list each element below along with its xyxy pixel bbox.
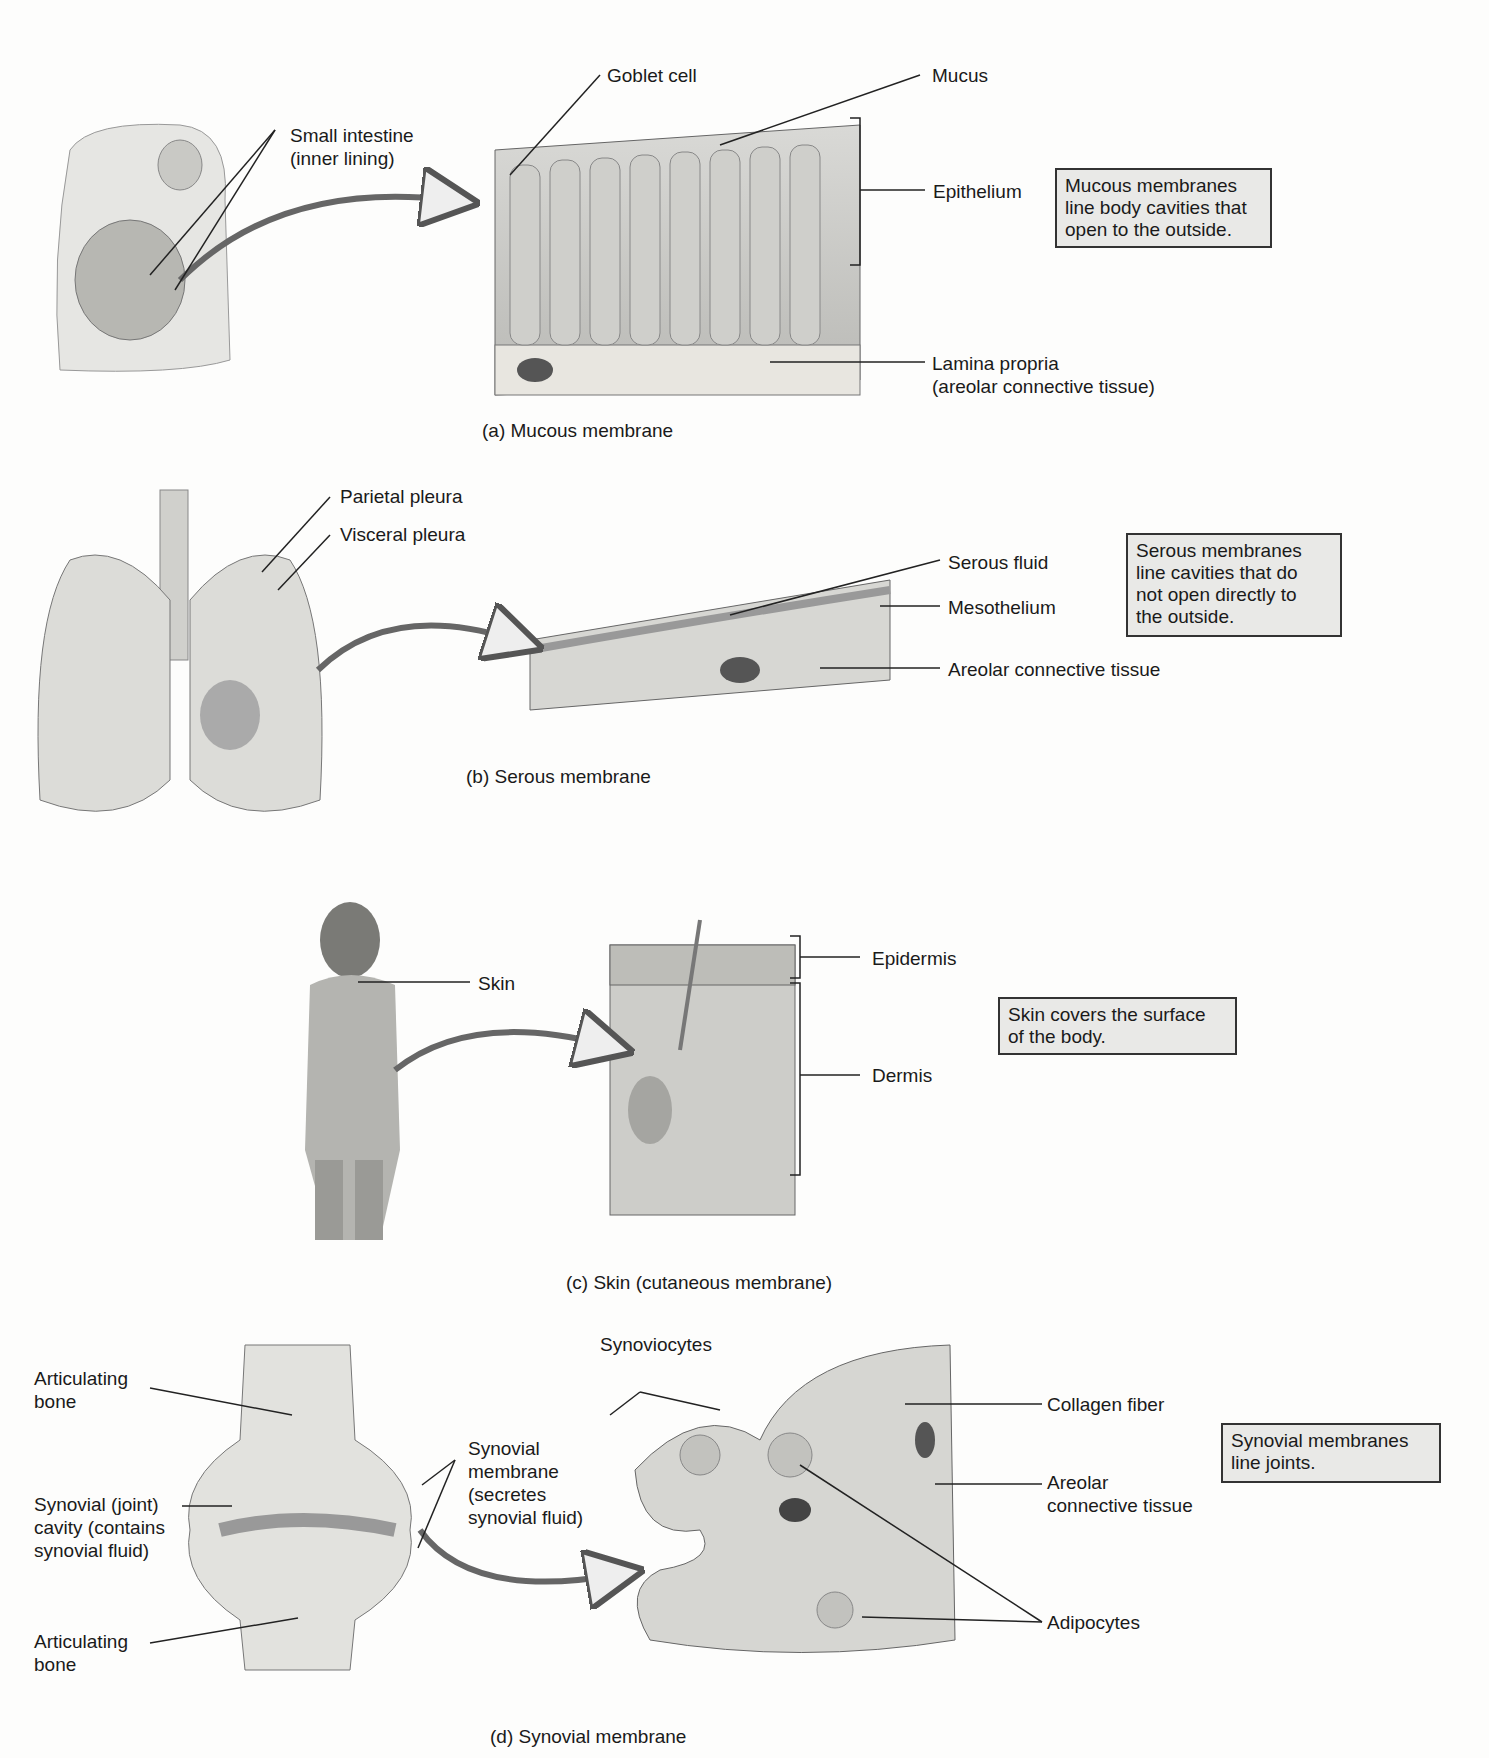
arrow-b bbox=[318, 625, 515, 670]
abdomen-illustration bbox=[57, 124, 230, 371]
synovial-tissue-illustration bbox=[635, 1345, 955, 1653]
illustration-layer bbox=[0, 0, 1489, 1758]
label-articulating-bone-top: Articulating bone bbox=[34, 1367, 128, 1413]
serous-membrane-illustration bbox=[530, 580, 890, 710]
human-figure-illustration bbox=[305, 902, 400, 1240]
label-dermis: Dermis bbox=[872, 1064, 932, 1087]
caption-d: (d) Synovial membrane bbox=[490, 1726, 686, 1748]
label-synovial-membrane: Synovial membrane (secretes synovial flu… bbox=[468, 1437, 583, 1529]
label-epithelium: Epithelium bbox=[933, 180, 1022, 203]
label-small-intestine: Small intestine (inner lining) bbox=[290, 124, 414, 170]
label-skin: Skin bbox=[478, 972, 515, 995]
lungs-illustration bbox=[38, 490, 322, 811]
note-skin: Skin covers the surface of the body. bbox=[998, 997, 1237, 1055]
label-visceral-pleura: Visceral pleura bbox=[340, 523, 465, 546]
label-adipocytes: Adipocytes bbox=[1047, 1611, 1140, 1634]
arrow-d bbox=[420, 1530, 615, 1582]
joint-illustration bbox=[189, 1345, 412, 1670]
label-goblet-cell: Goblet cell bbox=[607, 64, 697, 87]
label-mucus: Mucus bbox=[932, 64, 988, 87]
label-mesothelium: Mesothelium bbox=[948, 596, 1056, 619]
caption-c: (c) Skin (cutaneous membrane) bbox=[566, 1272, 832, 1294]
caption-a: (a) Mucous membrane bbox=[482, 420, 673, 442]
label-parietal-pleura: Parietal pleura bbox=[340, 485, 463, 508]
mucous-membrane-illustration bbox=[495, 125, 860, 395]
label-areolar-d: Areolar connective tissue bbox=[1047, 1471, 1193, 1517]
note-serous: Serous membranes line cavities that do n… bbox=[1126, 533, 1342, 637]
label-synoviocytes: Synoviocytes bbox=[600, 1333, 712, 1356]
caption-b: (b) Serous membrane bbox=[466, 766, 651, 788]
label-synovial-cavity: Synovial (joint) cavity (contains synovi… bbox=[34, 1493, 165, 1562]
label-areolar-b: Areolar connective tissue bbox=[948, 658, 1160, 681]
note-synovial: Synovial membranes line joints. bbox=[1221, 1423, 1441, 1483]
note-mucous: Mucous membranes line body cavities that… bbox=[1055, 168, 1272, 248]
label-collagen-fiber: Collagen fiber bbox=[1047, 1393, 1164, 1416]
arrow-c bbox=[395, 1032, 605, 1070]
label-epidermis: Epidermis bbox=[872, 947, 956, 970]
label-lamina-propria: Lamina propria (areolar connective tissu… bbox=[932, 352, 1155, 398]
label-articulating-bone-bottom: Articulating bone bbox=[34, 1630, 128, 1676]
skin-block-illustration bbox=[610, 920, 795, 1215]
label-serous-fluid: Serous fluid bbox=[948, 551, 1048, 574]
